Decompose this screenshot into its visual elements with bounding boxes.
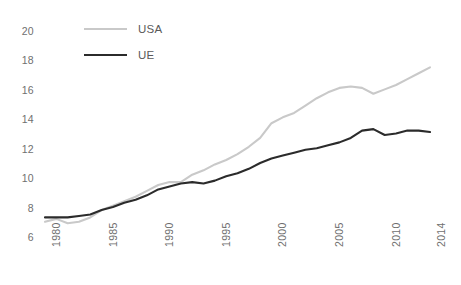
series-line-ue <box>45 129 430 217</box>
legend-label-ue: UE <box>138 49 155 61</box>
y-tick-18: 18 <box>8 54 34 66</box>
legend-label-usa: USA <box>138 23 163 35</box>
y-tick-16: 16 <box>8 84 34 96</box>
x-tick-1980: 1980 <box>50 222 62 247</box>
x-tick-2010: 2010 <box>390 222 402 247</box>
x-tick-1985: 1985 <box>107 222 119 247</box>
x-tick-2000: 2000 <box>276 222 288 247</box>
line-chart: 20181614121086 1980198519901995200020052… <box>0 0 461 285</box>
x-tick-2014: 2014 <box>435 222 447 247</box>
legend-swatch-usa <box>84 28 127 30</box>
legend-item-usa: USA <box>84 23 163 35</box>
legend-item-ue: UE <box>84 49 155 61</box>
x-tick-2005: 2005 <box>333 222 345 247</box>
x-tick-1995: 1995 <box>220 222 232 247</box>
y-tick-8: 8 <box>8 202 34 214</box>
y-tick-6: 6 <box>8 231 34 243</box>
y-tick-20: 20 <box>8 25 34 37</box>
series-line-usa <box>45 67 430 223</box>
y-tick-10: 10 <box>8 172 34 184</box>
y-tick-14: 14 <box>8 113 34 125</box>
legend-swatch-ue <box>84 54 127 56</box>
series-lines <box>45 67 430 223</box>
y-tick-12: 12 <box>8 143 34 155</box>
x-tick-1990: 1990 <box>163 222 175 247</box>
